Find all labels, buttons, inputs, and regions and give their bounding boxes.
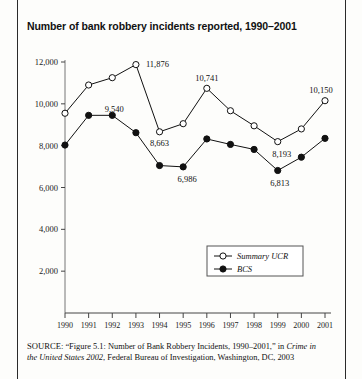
source-place-year: Washington, DC, 2003 [218,353,295,362]
data-point [298,126,304,132]
source-note: SOURCE: “Figure 5.1: Number of Bank Robb… [27,341,327,364]
data-point [133,61,139,67]
source-in-word: in [278,342,285,351]
y-tick-label: 10,000 [35,99,58,109]
x-tick-label: 1994 [152,321,168,330]
data-point-label: 8,663 [150,138,169,148]
x-tick-label: 1992 [104,321,120,330]
x-tick-label: 2001 [317,321,333,330]
data-point [204,85,210,91]
x-tick-label: 1991 [81,321,97,330]
data-point [133,130,139,136]
data-point [109,112,115,118]
data-point-label: 10,741 [195,73,218,83]
data-point [156,129,162,135]
page-left-rule [17,0,18,379]
data-point [86,112,92,118]
source-label: SOURCE: [27,341,63,351]
x-tick-label: 1998 [246,321,262,330]
y-tick-label: 6,000 [39,183,58,193]
y-tick-label: 8,000 [39,141,58,151]
data-point [275,167,281,173]
chart-canvas: 2,0004,0006,0008,00010,00012,00019901991… [27,50,337,330]
source-quoted-figure: “Figure 5.1: Number of Bank Robbery Inci… [65,342,275,351]
data-point [322,135,328,141]
y-tick-label: 2,000 [39,266,58,276]
data-point-label: 8,193 [272,149,291,159]
x-tick-label: 1993 [128,321,144,330]
data-point [62,110,68,116]
data-point [298,154,304,160]
y-tick-label: 12,000 [35,57,58,67]
series-summary-ucr: 11,8768,66310,7418,19310,150 [62,59,333,159]
y-tick-label: 4,000 [39,224,58,234]
legend-filled-circle-icon [220,266,226,272]
data-point-label: 11,876 [146,59,169,69]
data-point [275,139,281,145]
data-point [156,162,162,168]
series-line [65,115,325,170]
figure-page: Number of bank robbery incidents reporte… [0,0,362,379]
x-tick-label: 1999 [270,321,286,330]
legend-item-label: BCS [237,264,253,274]
data-point-label: 10,150 [309,85,332,95]
data-point [62,142,68,148]
x-tick-label: 1995 [175,321,191,330]
line-chart: 2,0004,0006,0008,00010,00012,00019901991… [27,50,337,330]
data-point [204,136,210,142]
data-point [180,121,186,127]
data-point [227,108,233,114]
data-point [180,164,186,170]
legend-open-circle-icon [220,253,226,259]
x-tick-label: 2000 [293,321,309,330]
series-bcs: 9,5406,9866,813 [62,104,328,188]
legend-item-label: Summary UCR [237,251,289,261]
x-tick-label: 1990 [57,321,73,330]
x-tick-label: 1997 [222,321,238,330]
source-agency: , Federal Bureau of Investigation, [103,353,216,362]
chart-legend: Summary UCRBCS [207,246,303,276]
data-point [322,98,328,104]
data-point [109,75,115,81]
x-tick-label: 1996 [199,321,215,330]
data-point [251,146,257,152]
data-point [251,123,257,129]
page-right-rule [345,0,346,379]
data-point-label: 6,986 [178,174,197,184]
data-point-label: 6,813 [270,178,289,188]
page-title: Number of bank robbery incidents reporte… [27,20,297,32]
data-point [227,141,233,147]
data-point [86,82,92,88]
